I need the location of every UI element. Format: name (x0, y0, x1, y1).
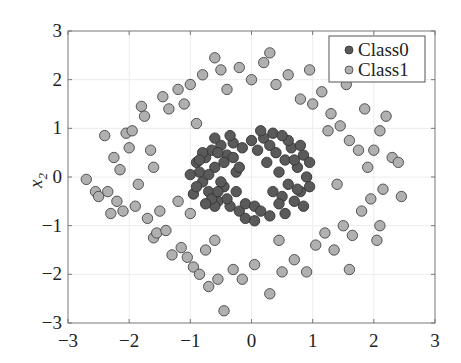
legend: Class0 Class1 (329, 36, 425, 82)
x-tick-label: −1 (180, 330, 200, 351)
point-class1 (197, 70, 207, 80)
point-class1 (396, 191, 406, 201)
x-tick-label: 1 (308, 330, 318, 351)
point-class1 (106, 208, 116, 218)
point-class1 (246, 75, 256, 85)
point-class1 (164, 104, 174, 114)
y-tick-label: 1 (53, 117, 63, 138)
point-class1 (200, 245, 210, 255)
point-class1 (326, 109, 336, 119)
x-tick-label: −3 (58, 330, 78, 351)
point-class1 (139, 111, 149, 121)
point-class1 (216, 65, 226, 75)
point-class0 (237, 143, 247, 153)
point-class1 (366, 194, 376, 204)
point-class1 (375, 221, 385, 231)
point-class1 (311, 240, 321, 250)
point-class0 (225, 130, 235, 140)
point-class0 (240, 213, 250, 223)
point-class1 (234, 62, 244, 72)
point-class1 (323, 126, 333, 136)
point-class0 (274, 199, 284, 209)
point-class1 (112, 196, 122, 206)
point-class1 (344, 135, 354, 145)
point-class0 (301, 172, 311, 182)
legend-marker-class1 (345, 66, 353, 74)
y-axis-label: x2 (25, 173, 50, 189)
x-tick-label: 3 (430, 330, 440, 351)
point-class1 (130, 201, 140, 211)
point-class0 (240, 199, 250, 209)
point-class0 (194, 155, 204, 165)
y-tick-label: 3 (53, 20, 63, 41)
point-class1 (194, 269, 204, 279)
point-class0 (298, 201, 308, 211)
point-class1 (182, 252, 192, 262)
point-class1 (133, 179, 143, 189)
point-class1 (317, 87, 327, 97)
point-class1 (381, 111, 391, 121)
point-class1 (145, 145, 155, 155)
point-class1 (115, 165, 125, 175)
point-class0 (210, 133, 220, 143)
y-tick-label: −2 (42, 263, 62, 284)
point-class1 (329, 245, 339, 255)
point-class1 (161, 225, 171, 235)
point-class1 (210, 53, 220, 63)
point-class1 (81, 174, 91, 184)
point-class0 (246, 135, 256, 145)
point-class1 (124, 143, 134, 153)
point-class1 (109, 152, 119, 162)
point-class1 (210, 235, 220, 245)
scatter-chart: −3−2−10123 3210−1−2−3 x2 Class0 Class1 (0, 0, 461, 363)
point-class1 (375, 126, 385, 136)
point-class1 (277, 267, 287, 277)
point-class1 (289, 255, 299, 265)
point-class0 (252, 145, 262, 155)
point-class0 (271, 148, 281, 158)
x-tick-label: 0 (247, 330, 257, 351)
point-class1 (372, 235, 382, 245)
point-class1 (93, 191, 103, 201)
point-class1 (271, 79, 281, 89)
point-class0 (234, 162, 244, 172)
point-class1 (219, 306, 229, 316)
point-class1 (185, 79, 195, 89)
point-class0 (289, 196, 299, 206)
point-class1 (185, 208, 195, 218)
point-class0 (204, 169, 214, 179)
point-class0 (191, 182, 201, 192)
point-class0 (219, 157, 229, 167)
point-class1 (393, 157, 403, 167)
point-class1 (338, 221, 348, 231)
point-class0 (213, 148, 223, 158)
legend-marker-class0 (345, 46, 353, 54)
point-class0 (268, 186, 278, 196)
point-class1 (103, 186, 113, 196)
point-class1 (335, 121, 345, 131)
point-class1 (274, 235, 284, 245)
point-class1 (142, 213, 152, 223)
point-class1 (363, 162, 373, 172)
point-class1 (152, 228, 162, 238)
point-class0 (256, 126, 266, 136)
point-class1 (237, 274, 247, 284)
point-class1 (155, 206, 165, 216)
point-class1 (344, 264, 354, 274)
point-class0 (265, 211, 275, 221)
point-class0 (304, 182, 314, 192)
point-class0 (213, 186, 223, 196)
point-class1 (179, 99, 189, 109)
point-class0 (295, 140, 305, 150)
point-class1 (265, 289, 275, 299)
point-class0 (222, 194, 232, 204)
point-class0 (289, 155, 299, 165)
x-tick-labels: −3−2−10123 (58, 330, 440, 351)
point-class0 (228, 152, 238, 162)
point-class1 (320, 228, 330, 238)
point-class1 (158, 92, 168, 102)
point-class1 (136, 101, 146, 111)
point-class1 (173, 196, 183, 206)
point-class0 (249, 216, 259, 226)
point-class1 (295, 94, 305, 104)
